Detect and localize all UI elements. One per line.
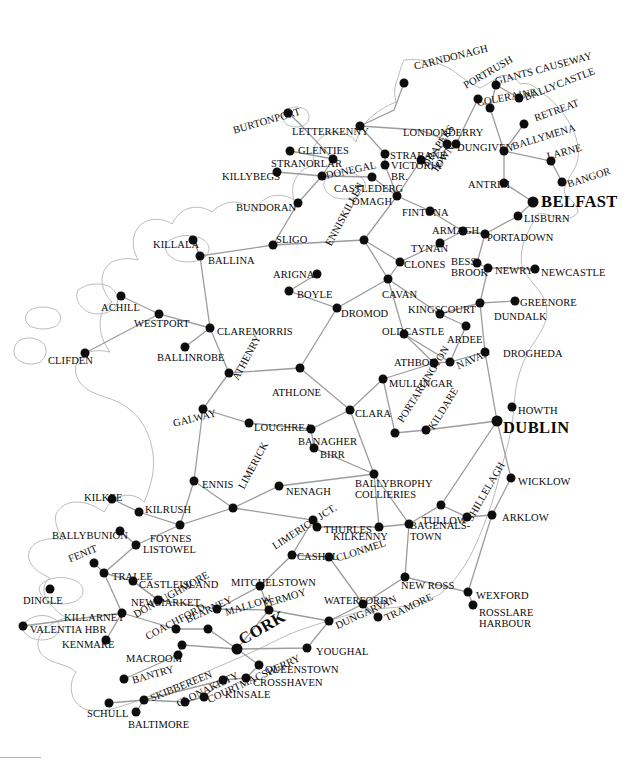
- city-label: KILRUSH: [145, 505, 191, 516]
- city-dot[interactable]: [190, 477, 199, 486]
- city-dot[interactable]: [196, 252, 205, 261]
- city-dot[interactable]: [120, 675, 129, 684]
- city-label: NEW ROSS: [401, 581, 454, 592]
- city-label: TYNAN: [411, 244, 448, 255]
- city-dot[interactable]: [245, 419, 254, 428]
- city-label: NEWCASTLE: [541, 268, 605, 279]
- city-label: LISTOWEL: [143, 545, 196, 556]
- city-label: WEXFORD: [476, 591, 529, 602]
- city-label: SCHULL: [87, 709, 128, 720]
- city-label: KENMARE: [62, 640, 115, 651]
- city-label: BALTIMORE: [128, 720, 189, 731]
- city-dot[interactable]: [528, 197, 539, 208]
- city-dot[interactable]: [178, 641, 187, 650]
- city-dot[interactable]: [507, 474, 516, 483]
- city-dot[interactable]: [206, 324, 215, 333]
- city-dot[interactable]: [90, 559, 99, 568]
- city-label: ACHILL: [101, 303, 140, 314]
- city-dot[interactable]: [464, 588, 473, 597]
- city-dot[interactable]: [325, 617, 334, 626]
- city-dot[interactable]: [275, 482, 284, 491]
- city-dot[interactable]: [488, 511, 497, 520]
- city-dot[interactable]: [303, 644, 312, 653]
- city-label: BANAGHER: [298, 437, 357, 448]
- city-dot[interactable]: [437, 501, 446, 510]
- city-dot[interactable]: [229, 504, 238, 513]
- city-dot[interactable]: [514, 212, 523, 221]
- city-label: KILLALA: [153, 240, 199, 251]
- city-dot[interactable]: [132, 541, 141, 550]
- city-dot[interactable]: [46, 585, 55, 594]
- city-dot[interactable]: [391, 429, 400, 438]
- city-dot[interactable]: [476, 299, 485, 308]
- city-dot[interactable]: [140, 696, 149, 705]
- city-label: BALLINROBE: [157, 353, 225, 364]
- city-label: BESS- BROOK: [451, 257, 488, 278]
- city-label: LISBURN: [524, 214, 570, 225]
- city-dot[interactable]: [492, 416, 503, 427]
- city-dot[interactable]: [346, 406, 355, 415]
- city-label: ROSSLARE HARBOUR: [479, 608, 533, 629]
- city-dot[interactable]: [508, 403, 517, 412]
- city-dot[interactable]: [19, 622, 28, 631]
- city-label: BALLYBUNION: [52, 531, 128, 542]
- city-label: ENNIS: [202, 480, 233, 491]
- city-label: GREENORE: [520, 298, 577, 309]
- city-label: CLONES: [404, 260, 445, 271]
- city-label: BALLYBROPHY COLLIERIES: [355, 479, 433, 500]
- city-dot[interactable]: [296, 364, 305, 373]
- city-label: PORTADOWN: [487, 233, 554, 244]
- city-dot[interactable]: [286, 147, 295, 156]
- city-label: CLARA: [355, 409, 391, 420]
- city-label: ATHLONE: [272, 388, 321, 399]
- city-dot[interactable]: [381, 161, 390, 170]
- city-dot[interactable]: [288, 551, 297, 560]
- city-label: BAGENALS- TOWN: [410, 521, 470, 542]
- city-dot[interactable]: [360, 236, 369, 245]
- city-label: WESTPORT: [134, 319, 190, 330]
- city-label: WICKLOW: [518, 477, 571, 488]
- city-label: YOUGHAL: [316, 647, 369, 658]
- city-label: NEWRY: [495, 266, 533, 277]
- city-dot[interactable]: [204, 625, 213, 634]
- city-label: KILLYBEGS: [222, 172, 280, 183]
- city-dot[interactable]: [469, 601, 478, 610]
- bottom-rule-divider: [0, 757, 41, 758]
- city-dot[interactable]: [381, 150, 390, 159]
- city-label: MACROOM: [126, 654, 182, 665]
- city-label: DINGLE: [23, 596, 63, 607]
- city-label: KINGSCOURT: [408, 305, 476, 316]
- city-label: DUNDALK: [494, 312, 547, 323]
- city-dot[interactable]: [181, 343, 190, 352]
- city-label: SLIGO: [276, 235, 307, 246]
- city-dot[interactable]: [462, 322, 471, 331]
- city-label: DROGHEDA: [503, 349, 563, 360]
- city-dot[interactable]: [368, 173, 377, 182]
- city-label: DUNGIVEN: [457, 143, 513, 154]
- city-label: FINTONA: [402, 208, 449, 219]
- city-label: BALLINA: [208, 256, 255, 267]
- city-dot[interactable]: [511, 297, 520, 306]
- city-label: ARDEE: [447, 335, 483, 346]
- city-label: KILKEE: [84, 493, 123, 504]
- city-dot[interactable]: [400, 79, 409, 88]
- city-dot[interactable]: [446, 358, 455, 367]
- city-dot[interactable]: [135, 508, 144, 517]
- city-dot[interactable]: [520, 120, 529, 129]
- city-label: CASHEL: [297, 552, 338, 563]
- city-dot[interactable]: [285, 287, 294, 296]
- city-label: BOYLE: [297, 290, 333, 301]
- city-label: DUBLIN: [503, 420, 570, 437]
- city-dot[interactable]: [100, 569, 109, 578]
- ireland-railway-map: CARNDONAGHBURTONPORTLETTERKENNYPORTRUSHG…: [0, 0, 639, 766]
- city-label: HOWTH: [518, 406, 558, 417]
- city-dot[interactable]: [105, 699, 114, 708]
- city-label: OLDCASTLE: [382, 327, 444, 338]
- city-dot[interactable]: [379, 375, 388, 384]
- city-dot[interactable]: [176, 521, 185, 530]
- city-dot[interactable]: [117, 292, 126, 301]
- city-label: CAVAN: [382, 290, 417, 301]
- city-dot[interactable]: [132, 708, 141, 717]
- city-dot[interactable]: [232, 644, 243, 655]
- city-dot[interactable]: [384, 275, 393, 284]
